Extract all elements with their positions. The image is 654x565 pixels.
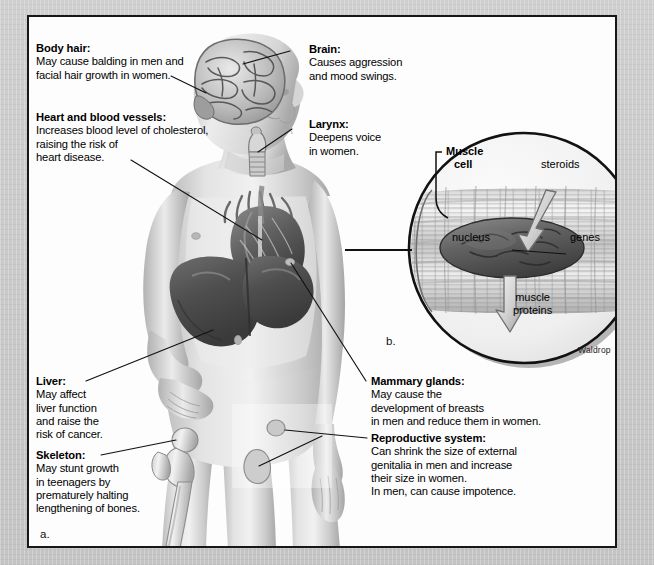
label-body-hair: Body hair: May cause balding in men and … [36, 42, 226, 82]
label-brain-line-2: and mood swings. [309, 70, 459, 83]
label-brain-heading: Brain: [309, 43, 459, 56]
label-skeleton-heading: Skeleton: [36, 449, 196, 462]
inset-label-genes: genes [570, 231, 600, 244]
label-larynx: Larynx: Deepens voice in women. [309, 118, 459, 158]
inset-label-muscle-proteins: muscle proteins [513, 291, 552, 316]
label-heart-line-3: heart disease. [36, 151, 236, 164]
label-skeleton: Skeleton: May stunt growth in teenagers … [36, 449, 196, 516]
label-body-hair-heading: Body hair: [36, 42, 226, 55]
label-reproductive-line-3: their size in women. [371, 472, 591, 485]
label-liver-line-3: and raise the [36, 415, 166, 428]
label-reproductive-line-1: Can shrink the size of external [371, 445, 591, 458]
inset-label-muscle-proteins-line-1: muscle [513, 291, 552, 304]
label-body-hair-line-1: May cause balding in men and [36, 55, 226, 68]
label-mammary-line-1: May cause the [371, 388, 591, 401]
label-heart-line-2: raising the risk of [36, 138, 236, 151]
label-skeleton-line-2: in teenagers by [36, 476, 196, 489]
label-liver-line-2: liver function [36, 402, 166, 415]
label-liver: Liver: May affect liver function and rai… [36, 375, 166, 442]
label-heart-heading: Heart and blood vessels: [36, 111, 236, 124]
inset-label-steroids: steroids [541, 158, 580, 171]
label-brain-line-1: Causes aggression [309, 56, 459, 69]
inset-label-muscle-cell-line-2: cell [454, 158, 483, 171]
label-brain: Brain: Causes aggression and mood swings… [309, 43, 459, 83]
label-mammary-line-2: development of breasts [371, 402, 591, 415]
label-larynx-heading: Larynx: [309, 118, 459, 131]
label-skeleton-line-4: lengthening of bones. [36, 502, 196, 515]
label-mammary-glands: Mammary glands: May cause the developmen… [371, 375, 591, 428]
label-reproductive-line-4: In men, can cause impotence. [371, 485, 591, 498]
label-mammary-line-3: in men and reduce them in women. [371, 415, 591, 428]
label-larynx-line-2: in women. [309, 145, 459, 158]
label-heart-and-blood-vessels: Heart and blood vessels: Increases blood… [36, 111, 236, 164]
label-reproductive-heading: Reproductive system: [371, 432, 591, 445]
label-skeleton-line-1: May stunt growth [36, 462, 196, 475]
illustration-credit: Waldrop [578, 345, 611, 355]
label-liver-line-4: risk of cancer. [36, 428, 166, 441]
label-body-hair-line-2: facial hair growth in women. [36, 69, 226, 82]
inset-label-muscle-proteins-line-2: proteins [513, 304, 552, 317]
label-reproductive-system: Reproductive system: Can shrink the size… [371, 432, 591, 499]
label-liver-line-1: May affect [36, 388, 166, 401]
figure-label-b: b. [386, 335, 396, 347]
label-reproductive-line-2: genitalia in men and increase [371, 459, 591, 472]
label-liver-heading: Liver: [36, 375, 166, 388]
label-skeleton-line-3: prematurely halting [36, 489, 196, 502]
label-mammary-heading: Mammary glands: [371, 375, 591, 388]
figure-label-a: a. [40, 528, 50, 540]
muscle-cell-inset [345, 133, 654, 368]
label-larynx-line-1: Deepens voice [309, 131, 459, 144]
label-heart-line-1: Increases blood level of cholesterol, [36, 124, 236, 137]
inset-label-nucleus: nucleus [452, 231, 490, 244]
inset-label-muscle-cell-line-1: Muscle [446, 145, 483, 158]
figure-stage: Body hair: May cause balding in men and … [0, 0, 654, 565]
inset-label-muscle-cell: Muscle cell [446, 145, 483, 170]
